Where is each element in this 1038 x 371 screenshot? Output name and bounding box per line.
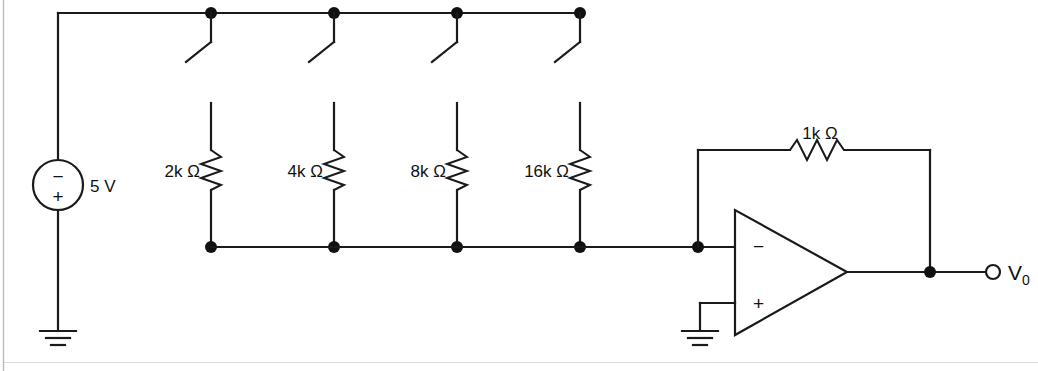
resistor-2k-label: 2k Ω — [165, 162, 200, 181]
source-value-label: 5 V — [90, 177, 116, 196]
resistor-16k — [570, 150, 590, 190]
ground-opamp-symbol — [682, 331, 718, 345]
branch-8k: 8k Ω — [411, 7, 467, 253]
top-supply-rail — [58, 13, 580, 160]
resistor-1k-feedback — [790, 140, 850, 160]
feedback-network: 1k Ω — [698, 124, 930, 272]
switch-2[interactable] — [309, 13, 334, 62]
page-border-artifacts — [4, 0, 1038, 371]
source-negative-sign: − — [52, 166, 63, 187]
circuit-diagram-canvas: − + 5 V 2k Ω — [0, 0, 1038, 371]
node-output — [924, 266, 936, 278]
output-label-subscript: 0 — [1022, 272, 1030, 288]
opamp-ground-connection — [700, 303, 735, 330]
branch-4k: 4k Ω — [288, 7, 344, 253]
switch-3[interactable] — [432, 13, 457, 62]
opamp-inverting-input-label: − — [753, 236, 764, 257]
resistor-4k — [324, 150, 344, 190]
branch-2k: 2k Ω — [165, 7, 221, 253]
voltage-source: − + 5 V — [33, 160, 116, 330]
operational-amplifier[interactable]: − + — [735, 210, 847, 335]
output-label: V — [1008, 261, 1022, 284]
ground-source-symbol — [40, 331, 76, 345]
opamp-noninverting-input-label: + — [753, 293, 764, 314]
switch-4[interactable] — [555, 13, 580, 62]
source-positive-sign: + — [52, 186, 63, 207]
schematic-svg: − + 5 V 2k Ω — [0, 0, 1038, 371]
resistor-8k-label: 8k Ω — [411, 162, 446, 181]
output-terminal[interactable] — [986, 265, 1000, 279]
branch-16k: 16k Ω — [524, 7, 590, 253]
resistor-16k-label: 16k Ω — [524, 162, 569, 181]
summing-rail — [211, 241, 735, 253]
resistor-4k-label: 4k Ω — [288, 162, 323, 181]
resistor-8k — [447, 150, 467, 190]
resistor-1k-feedback-label: 1k Ω — [802, 124, 837, 143]
switch-1[interactable] — [186, 13, 211, 62]
output-net: V 0 — [847, 261, 1030, 288]
resistor-2k — [201, 150, 221, 190]
